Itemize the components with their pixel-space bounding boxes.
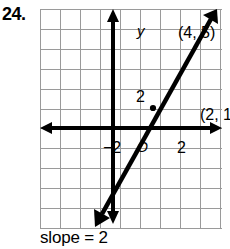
x-tick-label-2: 2 <box>177 140 186 156</box>
x-tick-label-negative-2: −2 <box>103 140 121 156</box>
graph-figure: 24. <box>0 0 230 249</box>
origin-label: O <box>137 140 148 154</box>
point-marker-2-1 <box>150 105 156 111</box>
problem-number: 24. <box>2 5 26 23</box>
y-axis-label: y <box>137 23 145 38</box>
point-label-2-1: (2, 1) <box>200 107 230 123</box>
point-label-4-5: (4, 5) <box>178 25 215 41</box>
y-tick-label-2: 2 <box>136 89 145 105</box>
coordinate-plane: y x O −2 2 2 (4, 5) (2, 1) <box>40 9 222 229</box>
slope-caption: slope = 2 <box>40 227 108 248</box>
coordinate-plane-svg <box>40 9 222 229</box>
graph-background <box>40 9 222 229</box>
